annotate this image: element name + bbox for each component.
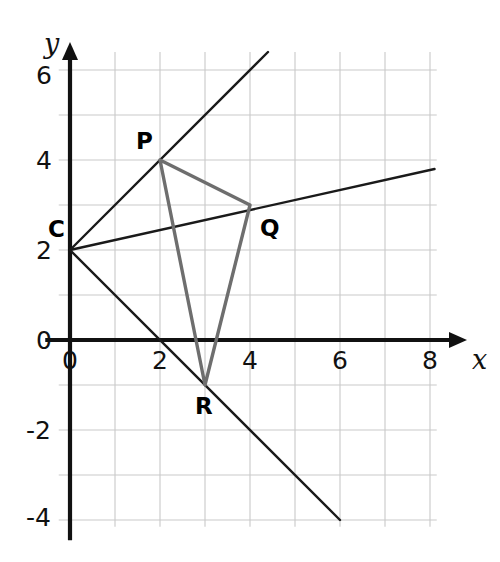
x-tick-label: 4 (242, 348, 258, 373)
y-tick-label: -4 (26, 505, 51, 530)
y-tick-label: 0 (36, 328, 52, 353)
x-tick-label: 8 (422, 348, 438, 373)
coordinate-plane-figure: 6 4 2 0 -2 -4 0 2 4 6 8 y x C P Q R (0, 0, 500, 562)
point-label-c: C (48, 218, 65, 241)
x-axis-label: x (472, 346, 487, 373)
grid-lines (59, 52, 437, 527)
point-label-p: P (136, 130, 153, 153)
x-tick-label: 0 (62, 348, 78, 373)
y-axis-arrowhead (62, 42, 78, 60)
plot-canvas (0, 0, 500, 562)
x-tick-label: 2 (152, 348, 168, 373)
point-label-r: R (195, 395, 213, 418)
y-tick-label: -2 (26, 418, 51, 443)
x-axis-arrowhead (449, 332, 467, 348)
x-tick-label: 6 (332, 348, 348, 373)
point-label-q: Q (260, 217, 280, 240)
y-tick-label: 4 (36, 148, 52, 173)
axes (45, 42, 467, 540)
y-tick-label: 6 (36, 63, 52, 88)
straight-lines (70, 52, 435, 520)
line-through-C-and-P (70, 52, 268, 250)
y-axis-label: y (44, 30, 59, 57)
line-through-C-and-Q (70, 169, 435, 250)
